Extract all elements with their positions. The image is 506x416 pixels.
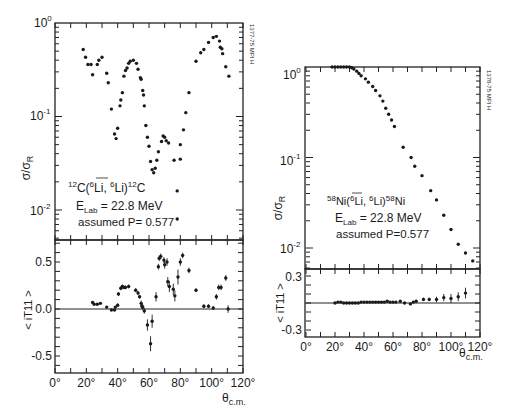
right-reaction-label: 58Ni(6Li, 6Li)58Ni xyxy=(327,194,405,207)
data-point xyxy=(96,303,99,306)
data-point xyxy=(428,298,431,301)
data-point xyxy=(212,36,215,39)
data-point xyxy=(152,171,155,174)
data-point xyxy=(142,93,145,96)
x-tick-label: 20° xyxy=(326,340,344,354)
data-point xyxy=(374,89,377,92)
data-point xyxy=(457,295,460,298)
data-point xyxy=(380,300,383,303)
data-point xyxy=(136,68,139,71)
data-point xyxy=(113,132,116,135)
data-point xyxy=(187,91,190,94)
data-point xyxy=(345,301,348,304)
data-point xyxy=(172,159,175,162)
data-point xyxy=(110,107,113,110)
data-point xyxy=(377,300,380,303)
data-point xyxy=(435,298,438,301)
right-ytick-1e-2: 10-2 xyxy=(280,240,301,256)
data-point xyxy=(160,140,163,143)
data-point xyxy=(336,65,339,68)
left-ytick-0.0: 0.0 xyxy=(35,302,52,316)
data-point xyxy=(182,128,185,131)
data-point xyxy=(388,300,391,303)
data-point xyxy=(336,300,339,303)
data-point xyxy=(221,52,224,55)
data-point xyxy=(365,300,368,303)
data-point xyxy=(399,300,402,303)
data-point xyxy=(390,118,393,121)
data-point xyxy=(207,41,210,44)
x-tick-label: 20° xyxy=(77,376,95,390)
data-point xyxy=(207,304,210,307)
left-ytick-0.5: 0.5 xyxy=(35,255,52,269)
x-tick-label: 60° xyxy=(140,376,158,390)
data-point xyxy=(202,304,205,307)
left-top-ylabel: σ/σR xyxy=(19,155,35,180)
data-point xyxy=(124,286,127,289)
left-xtick-labels: 0°20°40°60°80°100°120° xyxy=(49,376,255,390)
right-energy-label: ELab = 22.8 MeV xyxy=(335,211,421,227)
data-point xyxy=(215,295,218,298)
right-ytick-1e0: 100 xyxy=(283,66,301,82)
x-tick-label: 60° xyxy=(384,340,402,354)
x-tick-label: 120° xyxy=(231,376,256,390)
right-ytick-0.3: 0.3 xyxy=(285,270,302,284)
x-tick-label: 120° xyxy=(468,340,493,354)
data-point xyxy=(359,300,362,303)
data-point xyxy=(339,300,342,303)
data-point xyxy=(362,300,365,303)
left-ticks xyxy=(55,23,243,373)
x-tick-label: 100° xyxy=(199,376,224,390)
data-point xyxy=(333,65,336,68)
data-point xyxy=(147,145,150,148)
data-point xyxy=(99,302,102,305)
left-ytick--0.5: -0.5 xyxy=(31,349,52,363)
right-polarization-label: assumed P=0.577 xyxy=(336,228,429,240)
left-bottom-frame xyxy=(55,240,243,373)
data-point xyxy=(384,107,387,110)
data-point xyxy=(199,51,202,54)
data-point xyxy=(357,301,360,304)
data-point xyxy=(352,67,355,70)
x-tick-label: 0° xyxy=(300,340,312,354)
left-bottom-data-points xyxy=(91,253,230,352)
data-point xyxy=(132,59,135,62)
data-point xyxy=(409,156,412,159)
data-point xyxy=(368,300,371,303)
data-point xyxy=(135,62,138,65)
left-ytick-1e0: 100 xyxy=(34,14,52,30)
data-point xyxy=(391,300,394,303)
data-point xyxy=(92,303,95,306)
data-point xyxy=(401,145,404,148)
data-point xyxy=(383,300,386,303)
data-point xyxy=(342,65,345,68)
data-point xyxy=(364,77,367,80)
data-point xyxy=(144,124,147,127)
data-point xyxy=(381,99,384,102)
data-point xyxy=(422,298,425,301)
data-point xyxy=(89,63,92,66)
x-tick-label: 40° xyxy=(109,376,127,390)
data-point xyxy=(420,174,423,177)
left-figure-id: 1377-75 MPI H xyxy=(249,24,255,64)
data-point xyxy=(220,47,223,50)
data-point xyxy=(176,275,179,278)
data-point xyxy=(179,260,182,263)
data-point xyxy=(97,59,100,62)
data-point xyxy=(412,300,415,303)
data-point xyxy=(442,214,445,217)
data-point xyxy=(371,85,374,88)
data-point xyxy=(143,104,146,107)
data-point xyxy=(378,94,381,97)
data-point xyxy=(215,35,218,38)
data-point xyxy=(227,74,230,77)
data-point xyxy=(176,217,179,220)
right-ytick-1e-1: 10-1 xyxy=(280,152,301,168)
data-point xyxy=(118,104,121,107)
data-point xyxy=(354,301,357,304)
data-point xyxy=(187,269,190,272)
data-point xyxy=(114,137,117,140)
data-point xyxy=(359,74,362,77)
data-point xyxy=(224,276,227,279)
data-point xyxy=(154,295,157,298)
